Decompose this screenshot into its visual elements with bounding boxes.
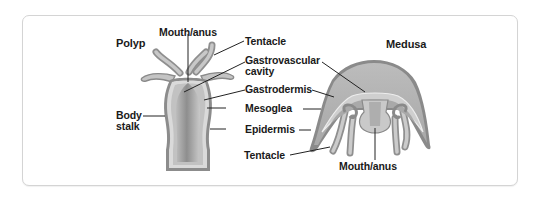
epidermis-label: Epidermis bbox=[245, 124, 295, 135]
medusa-mouth-anus-label: Mouth/anus bbox=[339, 161, 397, 172]
tentacle-top-label: Tentacle bbox=[245, 36, 286, 47]
tentacle-bottom-label: Tentacle bbox=[244, 150, 285, 161]
gastrovascular-cavity-label: Gastrovascular cavity bbox=[245, 55, 320, 77]
polyp-gastrovascular-cavity bbox=[176, 83, 200, 162]
body-stalk-line2: stalk bbox=[116, 121, 142, 132]
mesoglea-label: Mesoglea bbox=[245, 103, 292, 114]
diagram-art bbox=[0, 0, 540, 197]
polyp-mouth-anus-label: Mouth/anus bbox=[159, 27, 217, 38]
medusa-illustration bbox=[310, 60, 431, 153]
body-stalk-label: Body stalk bbox=[116, 110, 142, 132]
polyp-title: Polyp bbox=[116, 38, 145, 49]
gastrodermis-label: Gastrodermis bbox=[245, 84, 312, 95]
medusa-title: Medusa bbox=[386, 39, 426, 50]
gastrovascular-line2: cavity bbox=[245, 66, 320, 77]
